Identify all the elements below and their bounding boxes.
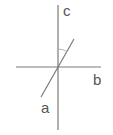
label-a: a	[41, 100, 49, 115]
label-b: b	[93, 72, 101, 87]
angle-arc	[58, 49, 67, 52]
label-c: c	[63, 3, 71, 18]
diagram-canvas	[0, 0, 113, 135]
